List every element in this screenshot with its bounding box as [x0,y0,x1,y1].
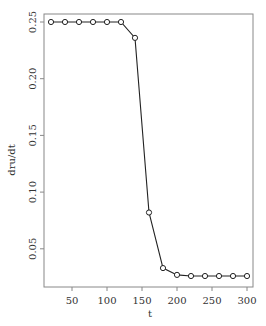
data-point-marker [188,273,193,278]
data-point-marker [146,210,151,215]
x-tick-label: 200 [167,295,186,306]
data-point-marker [202,273,207,278]
data-point-marker [174,272,179,277]
x-tick-label: 250 [202,295,221,306]
data-point-marker [230,273,235,278]
line-chart: 0.050.100.150.200.25 50100150200250300 t… [0,0,266,326]
plot-frame [44,14,253,287]
y-axis-label: dru/dt [6,144,17,175]
data-markers [48,19,249,278]
y-tick-label: 0.20 [27,68,38,90]
series-line [51,22,247,276]
y-tick-label: 0.15 [27,124,38,146]
data-point-marker [76,19,81,24]
y-tick-label: 0.25 [27,11,38,33]
data-point-marker [48,19,53,24]
data-point-marker [244,273,249,278]
x-tick-label: 50 [66,295,79,306]
x-tick-label: 300 [237,295,256,306]
data-point-marker [132,35,137,40]
x-tick-label: 100 [97,295,116,306]
y-axis: 0.050.100.150.200.25 [27,11,44,260]
x-axis-label: t [148,308,152,319]
data-point-marker [104,19,109,24]
y-tick-label: 0.10 [27,181,38,203]
data-point-marker [62,19,67,24]
y-tick-label: 0.05 [27,238,38,260]
data-point-marker [216,273,221,278]
data-point-marker [118,19,123,24]
data-point-marker [160,265,165,270]
data-point-marker [90,19,95,24]
x-tick-label: 150 [132,295,151,306]
x-axis: 50100150200250300 [66,287,257,306]
